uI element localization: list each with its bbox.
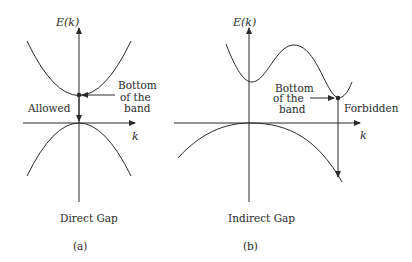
- panel-b-region-label: Forbidden: [344, 102, 399, 114]
- panel-a-band-bottom-dot: [77, 93, 82, 98]
- panel-b-title: Indirect Gap: [228, 212, 295, 224]
- panel-a-y-axis-label: E(k): [55, 16, 79, 29]
- panel-b-y-axis-label: E(k): [232, 16, 256, 29]
- band-diagram: E(k) k Bottom of the band Allowed Direct…: [0, 0, 412, 262]
- panel-b-band-bottom-dot: [336, 96, 341, 101]
- panel-a-region-label: Allowed: [27, 102, 71, 114]
- panel-a-annotation-line3: band: [124, 102, 151, 114]
- panel-a-title: Direct Gap: [60, 212, 118, 224]
- panel-a-x-axis-label: k: [132, 130, 139, 143]
- panel-b-indirect-gap: E(k) k Bottom of the band Forbidden Indi…: [174, 16, 399, 252]
- panel-b-caption: (b): [243, 240, 258, 252]
- panel-a-annotation-line1: Bottom: [118, 79, 157, 91]
- panel-b-annotation-line3: band: [279, 103, 306, 115]
- panel-a-direct-gap: E(k) k Bottom of the band Allowed Direct…: [23, 16, 157, 252]
- panel-b-x-axis-label: k: [360, 129, 367, 142]
- panel-a-caption: (a): [73, 240, 87, 252]
- panel-b-valence-band: [178, 123, 342, 182]
